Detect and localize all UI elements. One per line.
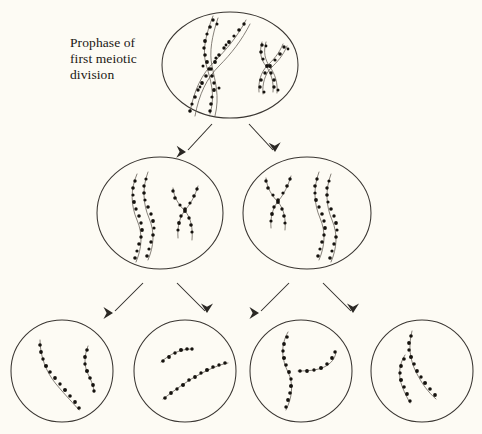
cell-bottom-1-long-chromatid-beads xyxy=(38,343,81,410)
cell-bottom-1-short-chromatid xyxy=(83,346,96,393)
cell-mid-right xyxy=(243,157,371,269)
cell-bottom-4-outline xyxy=(371,320,473,422)
cell-bottom-1 xyxy=(11,320,113,422)
cell-bottom-3 xyxy=(250,320,352,422)
cell-mid-right-outline xyxy=(243,157,371,269)
arrow-mid-left-to-b1 xyxy=(97,283,143,321)
cell-bottom-4 xyxy=(371,320,473,422)
cell-bottom-1-short-chromatid-beads xyxy=(83,348,96,392)
arrow-mid-right-to-b4 xyxy=(323,283,361,313)
cell-mid-left xyxy=(97,157,223,269)
arrow-top-to-mid-right xyxy=(249,124,283,152)
prophase-label: Prophase of first meiotic division xyxy=(70,35,162,83)
arrow-mid-right-to-b3 xyxy=(243,283,289,321)
cell-top xyxy=(162,12,298,118)
cell-bottom-1-outline xyxy=(11,320,113,422)
cell-bottom-2-short-chromatid-beads xyxy=(161,347,194,363)
cell-mid-left-long-dyad xyxy=(131,172,155,262)
cell-bottom-4-short-chromatid xyxy=(398,355,411,403)
cell-mid-right-long-dyad xyxy=(313,172,338,262)
cell-bottom-4-short-chromatid-beads xyxy=(398,357,411,402)
cell-bottom-2-long-chromatid xyxy=(163,361,228,400)
cell-mid-left-outline xyxy=(97,157,223,269)
arrow-mid-left-to-b2 xyxy=(177,283,215,313)
cell-bottom-2-short-chromatid xyxy=(161,347,194,363)
cell-bottom-3-short-chromatid xyxy=(298,350,337,373)
cell-mid-left-short-dyad xyxy=(171,186,198,240)
cell-bottom-3-long-chromatid xyxy=(281,332,293,410)
arrow-top-to-mid-left xyxy=(170,124,212,160)
cell-mid-right-short-dyad xyxy=(264,176,291,230)
cell-bottom-4-long-chromatid xyxy=(407,331,437,399)
cell-bottom-2 xyxy=(134,320,236,422)
cell-mid-right-long-dyad-beads xyxy=(313,177,338,260)
cell-top-outline xyxy=(162,12,298,118)
meiosis-diagram: Prophase of first meiotic division xyxy=(0,0,482,434)
cell-bottom-1-long-chromatid xyxy=(38,340,81,410)
cell-mid-right-short-dyad-beads xyxy=(264,177,291,224)
cell-bottom-2-outline xyxy=(134,320,236,422)
cell-bottom-4-long-chromatid-beads xyxy=(407,334,437,397)
cell-bottom-2-long-chromatid-beads xyxy=(163,361,227,400)
cell-top-long-bivalent xyxy=(188,16,250,116)
cell-top-short-bivalent xyxy=(258,42,289,94)
